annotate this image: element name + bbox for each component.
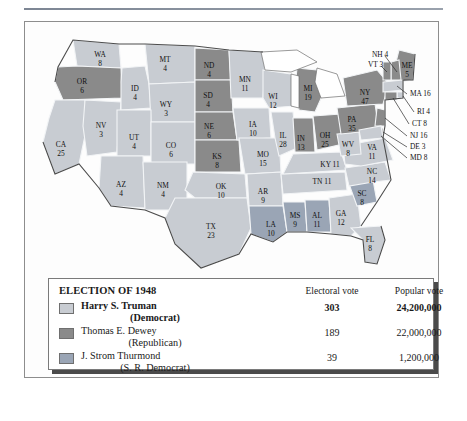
page-top-rule	[24, 8, 443, 10]
state-label-MI: MI	[303, 84, 313, 93]
legend-header-row: ELECTION OF 1948 Electoral vote Popular …	[49, 279, 433, 299]
popular-vote-dewey: 22,000,000	[373, 325, 465, 338]
state-votes-OH: 25	[321, 140, 329, 149]
state-label-MN: MN	[239, 75, 252, 84]
state-label-UT: UT	[129, 133, 139, 142]
state-label-line-4: VA	[367, 143, 377, 152]
state-label-CA: CA	[56, 140, 67, 149]
candidate-name-thurmond: J. Strom Thurmond	[81, 350, 291, 362]
state-label-outside-CT: CT 8	[412, 119, 427, 128]
state-votes-ME: 5	[405, 70, 409, 79]
popular-vote-thurmond: 1,200,000	[373, 350, 465, 363]
state-votes-CO: 6	[169, 150, 173, 159]
candidate-party-truman: (Democrat)	[81, 312, 291, 324]
state-label-IA: IA	[249, 120, 257, 129]
state-RI	[397, 92, 403, 98]
state-label-ND: ND	[204, 61, 215, 70]
state-label-outside-RI: RI 4	[417, 107, 430, 116]
legend-row-truman: Harry S. Truman (Democrat) 303 24,200,00…	[49, 299, 433, 324]
electoral-vote-truman: 303	[291, 300, 373, 313]
state-label-WI: WI	[268, 92, 278, 101]
state-votes-NM: 4	[161, 190, 165, 199]
state-votes-GA: 12	[337, 218, 345, 227]
candidate-party-dewey: (Republican)	[81, 337, 291, 349]
state-label-PA: PA	[348, 115, 357, 124]
leader-NJ	[385, 118, 407, 136]
state-votes-NY: 47	[361, 97, 369, 106]
state-NH	[391, 60, 401, 80]
state-votes-UT: 4	[132, 142, 136, 151]
state-votes-AZ: 4	[119, 189, 123, 198]
state-label-WY: WY	[160, 100, 173, 109]
state-label-SC: SC	[357, 189, 366, 198]
state-label-SD: SD	[203, 91, 213, 100]
state-votes-IN: 13	[297, 143, 305, 152]
lake-huron-erie-icon	[315, 68, 345, 98]
state-label-WA: WA	[94, 50, 106, 59]
state-votes-WY: 3	[164, 109, 168, 118]
state-votes-MO: 15	[259, 159, 267, 168]
state-WI	[263, 70, 295, 108]
state-shapes	[43, 40, 415, 268]
state-label-CO: CO	[166, 141, 177, 150]
state-label-AZ: AZ	[116, 180, 126, 189]
swatch-cell-truman	[59, 300, 81, 314]
state-votes-SC: 8	[360, 198, 364, 207]
state-votes-ID: 4	[133, 93, 137, 102]
state-votes-CA: 25	[57, 149, 65, 158]
candidate-party-thurmond: (S. R. Democrat)	[81, 362, 291, 374]
state-votes-NV: 3	[99, 130, 103, 139]
state-votes-KS: 8	[215, 161, 219, 170]
electoral-vote-thurmond: 39	[291, 350, 373, 363]
state-label-outside-MA: MA 16	[410, 89, 431, 98]
state-label-NE: NE	[204, 122, 214, 131]
state-label-OH: OH	[320, 131, 331, 140]
state-label-outside-DE: DE 3	[410, 142, 426, 151]
state-label-outside-VT: VT 3	[368, 60, 384, 69]
swatch-cell-thurmond	[59, 350, 81, 364]
state-label-OK: OK	[216, 182, 227, 191]
state-label-OR: OR	[77, 77, 87, 86]
state-votes-MN: 11	[241, 84, 248, 93]
state-votes-ND: 4	[207, 70, 211, 79]
state-votes-MT: 4	[163, 64, 167, 73]
state-label-NV: NV	[96, 121, 107, 130]
state-label-MT: MT	[159, 55, 171, 64]
candidate-cell-truman: Harry S. Truman (Democrat)	[81, 300, 291, 324]
candidate-cell-dewey: Thomas E. Dewey (Republican)	[81, 325, 291, 349]
state-votes-LA: 10	[267, 229, 275, 238]
swatch-cell-dewey	[59, 325, 81, 339]
state-label-NY: NY	[360, 88, 371, 97]
lake-michigan-icon	[291, 74, 299, 108]
state-votes-NE: 6	[207, 131, 211, 140]
state-label-IN: IN	[297, 134, 305, 143]
state-votes-TX: 23	[207, 231, 215, 240]
candidate-name-dewey: Thomas E. Dewey	[81, 325, 291, 337]
state-NJ	[375, 108, 385, 126]
state-votes-IA: 10	[249, 129, 257, 138]
state-votes-OR: 6	[80, 86, 84, 95]
color-swatch-thurmond	[59, 353, 74, 364]
column-header-electoral: Electoral vote	[291, 286, 373, 296]
legend-title: ELECTION OF 1948	[59, 285, 291, 296]
state-votes-NC: 14	[368, 176, 376, 185]
state-NE	[195, 112, 237, 140]
state-label-outside-NJ: NJ 16	[410, 131, 428, 140]
state-label-IL: IL	[280, 131, 287, 140]
state-label-AR: AR	[258, 187, 268, 196]
state-label-line-2: WV	[342, 140, 355, 149]
election-legend: ELECTION OF 1948 Electoral vote Popular …	[48, 278, 434, 370]
state-label-ID: ID	[131, 84, 139, 93]
state-label-line-0: TN 11	[313, 177, 332, 186]
state-MT	[145, 44, 195, 84]
state-label-TX: TX	[206, 222, 217, 231]
state-label-NC: NC	[367, 167, 377, 176]
state-votes-AL: 11	[313, 220, 320, 229]
state-label-FL: FL	[366, 235, 375, 244]
state-votes-MS: 9	[293, 220, 297, 229]
candidate-name-truman: Harry S. Truman	[81, 300, 291, 312]
candidate-cell-thurmond: J. Strom Thurmond (S. R. Democrat)	[81, 350, 291, 374]
state-label-ME: ME	[401, 61, 413, 70]
election-map-figure: WA8OR6CA25NV3ID4MT4WY3UT4AZ4CO6NM4ND4SD4…	[24, 21, 439, 378]
state-votes-OK: 10	[217, 191, 225, 200]
